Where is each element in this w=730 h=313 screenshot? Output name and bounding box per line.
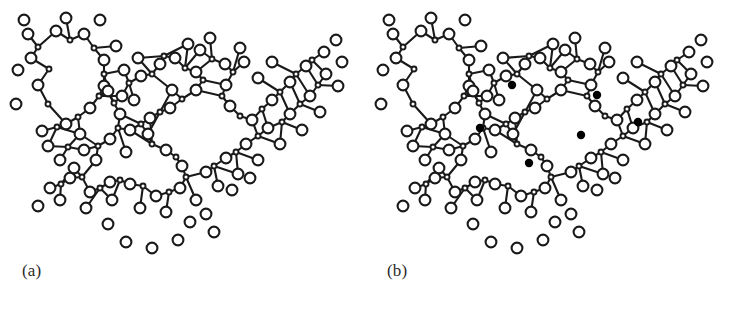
oxygen-atom — [213, 181, 224, 192]
oxygen-atom — [245, 173, 256, 184]
oxygen-atom — [337, 57, 348, 68]
oxygen-atom — [133, 53, 144, 64]
oxygen-atom — [398, 201, 409, 212]
oxygen-atom — [201, 167, 212, 178]
oxygen-atom — [460, 15, 471, 26]
oxygen-atom — [612, 115, 623, 126]
oxygen-atom — [145, 113, 156, 124]
silicon-atom — [256, 134, 261, 139]
silicon-atom — [659, 72, 664, 77]
oxygen-atom — [165, 103, 176, 114]
oxygen-atom — [170, 53, 181, 64]
oxygen-atom — [125, 125, 136, 136]
oxygen-atom — [556, 85, 567, 96]
silicon-atom — [527, 54, 532, 59]
oxygen-atom — [85, 103, 96, 114]
oxygen-atom — [33, 80, 44, 91]
oxygen-atom — [480, 109, 491, 120]
oxygen-atom — [388, 29, 399, 40]
silicon-atom — [280, 120, 285, 125]
oxygen-atom — [391, 53, 402, 64]
silicon-atom — [127, 81, 132, 86]
silicon-atom — [80, 175, 85, 180]
oxygen-atom — [191, 67, 202, 78]
panel-a-network-drawing — [0, 0, 365, 313]
silicon-atom — [532, 190, 537, 195]
silicon-atom — [675, 58, 680, 63]
oxygen-atom — [225, 101, 236, 112]
oxygen-atom — [315, 107, 326, 118]
silicon-atom — [603, 114, 608, 119]
silicon-atom — [174, 155, 179, 160]
oxygen-atom — [191, 85, 202, 96]
silicon-atom — [504, 122, 509, 127]
silicon-atom — [97, 94, 102, 99]
oxygen-atom — [61, 119, 72, 130]
oxygen-atom — [235, 43, 246, 54]
modifier-cation — [634, 118, 642, 126]
oxygen-atom — [37, 126, 48, 137]
silicon-atom — [278, 90, 283, 95]
modifier-cation — [508, 81, 516, 89]
oxygen-atom — [538, 235, 549, 246]
silicon-atom — [162, 54, 167, 59]
oxygen-atom — [510, 113, 521, 124]
silicon-atom — [96, 144, 101, 149]
oxygen-atom — [508, 129, 519, 140]
silicon-atom — [66, 145, 71, 150]
oxygen-atom — [201, 209, 212, 220]
oxygen-atom — [482, 91, 493, 102]
silicon-atom — [645, 120, 650, 125]
oxygen-atom — [125, 179, 136, 190]
silicon-atom — [539, 155, 544, 160]
oxygen-atom — [103, 86, 114, 97]
silicon-atom — [433, 38, 438, 43]
oxygen-atom — [175, 183, 186, 194]
silicon-atom — [585, 94, 590, 99]
silicon-atom — [102, 72, 107, 77]
oxygen-atom — [23, 29, 34, 40]
oxygen-atom — [444, 145, 455, 156]
silicon-atom — [643, 90, 648, 95]
oxygen-atom — [105, 134, 116, 145]
oxygen-atom — [574, 227, 585, 238]
silicon-atom — [220, 94, 225, 99]
silicon-atom — [150, 142, 155, 147]
oxygen-atom — [501, 71, 512, 82]
silicon-atom — [212, 164, 217, 169]
silicon-atom — [515, 72, 520, 77]
oxygen-atom — [640, 139, 651, 150]
oxygen-atom — [227, 185, 238, 196]
oxygen-atom — [253, 73, 264, 84]
oxygen-atom — [85, 187, 96, 198]
oxygen-atom — [540, 183, 551, 194]
oxygen-atom — [456, 155, 467, 166]
oxygen-atom — [520, 59, 531, 70]
oxygen-atom — [285, 77, 296, 88]
oxygen-atom — [484, 65, 495, 76]
oxygen-atom — [167, 85, 178, 96]
oxygen-atom — [135, 203, 146, 214]
oxygen-atom — [402, 126, 413, 137]
oxygen-atom — [177, 161, 188, 172]
panel-b-network-drawing — [365, 0, 730, 313]
oxygen-atom — [45, 183, 56, 194]
panel-b-modified-silicate-network: (b) — [365, 0, 730, 313]
silicon-atom — [441, 115, 446, 120]
silicon-atom — [36, 45, 41, 50]
oxygen-atom — [43, 141, 54, 152]
silicon-atom — [515, 142, 520, 147]
oxygen-atom — [221, 80, 232, 91]
silicon-atom — [625, 107, 630, 112]
oxygen-atom — [95, 15, 106, 26]
oxygen-atom — [650, 77, 661, 88]
oxygen-atom — [476, 41, 487, 52]
oxygen-atom — [686, 69, 697, 80]
oxygen-atom — [590, 101, 601, 112]
oxygen-atom — [81, 203, 92, 214]
silicon-atom — [183, 66, 188, 71]
oxygen-atom — [650, 109, 661, 120]
oxygen-atom — [376, 99, 387, 110]
oxygen-atom — [526, 207, 537, 218]
oxygen-atom — [566, 167, 577, 178]
